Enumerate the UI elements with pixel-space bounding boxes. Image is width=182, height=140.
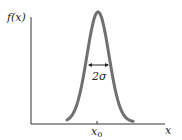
x0-label: x0 — [91, 125, 102, 139]
arrowhead-right — [105, 63, 109, 67]
gaussian-diagram: f(x) 2σ x0 x — [0, 0, 182, 140]
sigma-label: 2σ — [91, 70, 107, 83]
y-axis-label: f(x) — [6, 11, 26, 24]
arrowhead-left — [88, 63, 92, 67]
x-axis-label: x — [165, 124, 172, 137]
gaussian-curve — [67, 12, 133, 121]
